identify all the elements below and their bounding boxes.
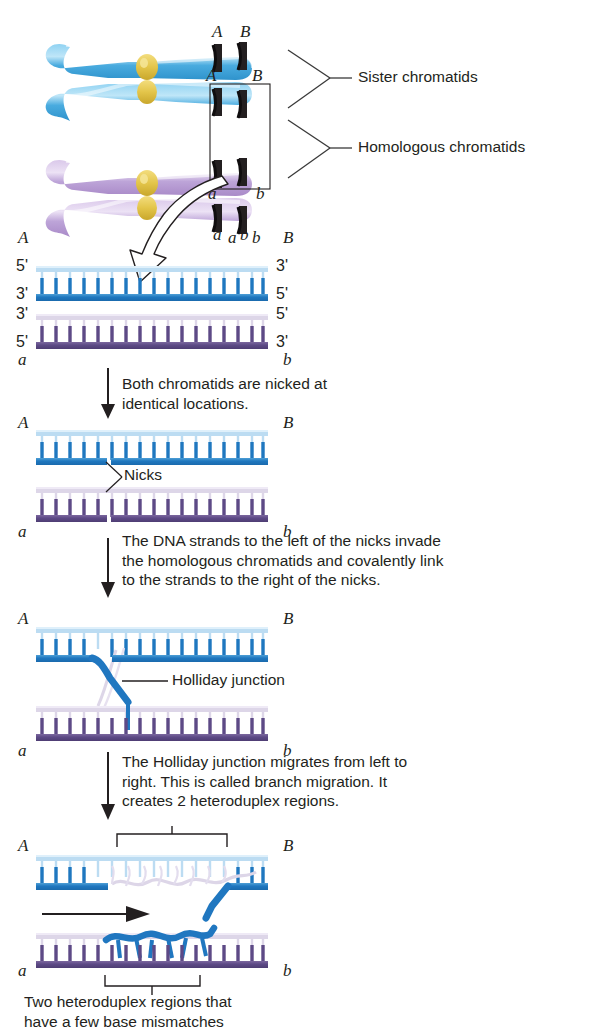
step-caption-3: The Holliday junction migrates from left… — [122, 752, 522, 811]
panel-3-label-B: B — [283, 609, 293, 629]
prime-purple-bot-right: 3' — [276, 333, 288, 351]
panel-1-label-a: a — [18, 350, 27, 370]
prime-blue-bot-left: 3' — [16, 285, 28, 303]
gene-label-A-second: A — [206, 66, 216, 86]
gene-label-A-top: A — [212, 22, 222, 42]
step-arrow-1 — [101, 368, 115, 419]
step-caption-2: The DNA strands to the left of the nicks… — [122, 531, 522, 590]
prime-blue-bot-right: 5' — [276, 285, 288, 303]
panel-1-label-b: b — [283, 350, 292, 370]
gene-label-B-top: B — [240, 22, 250, 42]
gene-label-a-bottom: a — [213, 225, 222, 245]
panel-1-dna — [36, 266, 268, 349]
step-arrow-3 — [101, 752, 115, 820]
gene-label-a-third: a — [208, 184, 217, 204]
brace-sister-chromatids — [288, 50, 352, 108]
step-arrow-2 — [101, 538, 115, 598]
gene-label-B-second: B — [252, 66, 262, 86]
brace-homologous-chromatids — [288, 120, 352, 178]
purple-backbone-right-2 — [111, 515, 268, 522]
panel-1-mid-label-a: a — [228, 228, 237, 248]
panel-4-label-b: b — [283, 961, 292, 981]
panel-4-label-a: a — [18, 961, 27, 981]
chromosome-illustration — [46, 42, 352, 282]
panel-1-mid-label-b: b — [252, 228, 261, 248]
invading-purple-strand — [112, 872, 256, 885]
prime-purple-bot-left: 5' — [16, 333, 28, 351]
prime-blue-top-right: 3' — [276, 257, 288, 275]
purple-duplex-bottom-strand-3 — [36, 718, 268, 741]
centromere-blue — [136, 54, 158, 104]
branch-migration-arrow — [42, 906, 150, 922]
prime-blue-top-left: 5' — [16, 257, 28, 275]
figure-canvas: A B A B a b a b Sister chromatids Homolo… — [0, 0, 603, 1035]
blue-duplex-bottom-strand-4 — [36, 866, 268, 918]
panel-4-label-B: B — [283, 836, 293, 856]
gene-label-b-bottom: b — [240, 225, 249, 245]
panel-1-label-A: A — [18, 228, 28, 248]
purple-backbone-left-2 — [36, 515, 107, 522]
panel-4-dna — [36, 826, 268, 995]
prime-purple-top-left: 3' — [16, 305, 28, 323]
blue-duplex-bottom-strand — [36, 278, 268, 301]
purple-duplex-bottom-strand-2 — [36, 499, 268, 522]
panel-2-label-a: a — [18, 522, 27, 542]
panel-2-label-B: B — [283, 413, 293, 433]
panel-3-label-a: a — [18, 741, 27, 761]
label-sister-chromatids: Sister chromatids — [358, 68, 478, 86]
footer-caption: Two heteroduplex regions that have a few… — [24, 992, 424, 1031]
blue-duplex-bottom-strand-2 — [36, 442, 268, 465]
blue-backbone-right-2 — [111, 458, 268, 465]
prime-purple-top-right: 5' — [276, 305, 288, 323]
panel-3-label-A: A — [18, 609, 28, 629]
label-holliday-junction: Holliday junction — [172, 671, 285, 689]
heteroduplex-bracket-top — [117, 826, 227, 847]
label-homologous-chromatids: Homologous chromatids — [358, 138, 525, 156]
label-nicks: Nicks — [124, 466, 162, 484]
panel-1-label-B: B — [283, 228, 293, 248]
panel-4-label-A: A — [18, 836, 28, 856]
step-caption-1: Both chromatids are nicked at identical … — [122, 374, 422, 413]
centromere-purple — [136, 170, 158, 220]
blue-backbone-left-2 — [36, 458, 107, 465]
purple-duplex-bottom-strand — [36, 326, 268, 349]
panel-2-label-A: A — [18, 413, 28, 433]
gene-label-b-third: b — [256, 184, 265, 204]
